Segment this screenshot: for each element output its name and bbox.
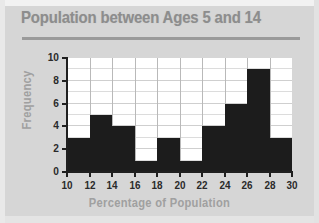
x-axis-tick-label: 18	[146, 179, 168, 191]
x-axis-tick-mark	[246, 173, 248, 177]
y-axis-tick-label: 10	[41, 51, 59, 63]
y-axis-tick-label: 6	[41, 97, 59, 109]
histogram-bar	[270, 138, 293, 172]
x-axis-tick-label: 12	[79, 179, 101, 191]
y-axis-tick-mark	[62, 148, 67, 150]
vertical-gridline	[180, 58, 181, 172]
x-axis-tick-mark	[201, 173, 203, 177]
chart-screenshot: Population between Ages 5 and 14 0246810…	[0, 0, 319, 223]
histogram-bar	[67, 138, 90, 172]
x-axis-tick-label: 20	[169, 179, 191, 191]
y-axis-tick-label: 0	[41, 165, 59, 177]
x-axis-tick-label: 24	[214, 179, 236, 191]
y-axis-tick-mark	[62, 80, 67, 82]
x-axis-tick-label: 22	[191, 179, 213, 191]
histogram-bar	[157, 138, 180, 172]
x-axis-tick-label: 14	[101, 179, 123, 191]
histogram-bar	[225, 104, 248, 172]
plot-container: 0246810 1012141618202224262830 Frequency…	[0, 0, 319, 223]
x-axis-tick-label: 10	[56, 179, 78, 191]
x-axis-tick-mark	[134, 173, 136, 177]
x-axis-tick-mark	[156, 173, 158, 177]
x-axis-tick-label: 30	[281, 179, 303, 191]
x-axis-title: Percentage of Population	[11, 196, 308, 210]
y-axis-tick-label: 2	[41, 142, 59, 154]
histogram-bar	[202, 126, 225, 172]
plot-area	[67, 58, 292, 172]
y-axis-line	[66, 57, 68, 173]
y-axis-tick-label: 4	[41, 119, 59, 131]
x-axis-tick-mark	[224, 173, 226, 177]
x-axis-tick-mark	[66, 173, 68, 177]
y-axis-tick-label: 8	[41, 74, 59, 86]
histogram-bar	[247, 69, 270, 172]
x-axis-tick-mark	[179, 173, 181, 177]
x-axis-tick-label: 28	[259, 179, 281, 191]
y-axis-tick-mark	[62, 103, 67, 105]
x-axis-tick-mark	[269, 173, 271, 177]
x-axis-tick-label: 16	[124, 179, 146, 191]
x-axis-tick-label: 26	[236, 179, 258, 191]
x-axis-tick-mark	[111, 173, 113, 177]
x-axis-tick-mark	[291, 173, 293, 177]
vertical-gridline	[135, 58, 136, 172]
histogram-bar	[112, 126, 135, 172]
x-axis-tick-mark	[89, 173, 91, 177]
y-axis-tick-mark	[62, 125, 67, 127]
y-axis-title: Frequency	[20, 63, 34, 137]
histogram-bar	[90, 115, 113, 172]
y-axis-tick-mark	[62, 57, 67, 59]
